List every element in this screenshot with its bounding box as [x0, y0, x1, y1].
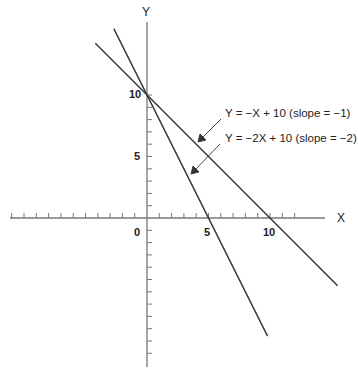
x-axis-label: X	[337, 212, 345, 224]
y-tick-label-5: 5	[134, 151, 140, 162]
x-tick-label-10: 10	[263, 227, 275, 238]
annotation-arrows	[191, 119, 221, 174]
arrow-eq1	[202, 119, 221, 138]
series-lines	[95, 29, 337, 337]
arrow-eq2	[195, 144, 220, 170]
y-axis-label: Y	[142, 6, 150, 18]
y-tick-label-10: 10	[129, 89, 141, 100]
equation-label-slope-2: Y = −2X + 10 (slope = −2)	[225, 133, 357, 145]
series-line-2	[114, 29, 268, 337]
chart-canvas	[0, 0, 358, 377]
y-ticks	[147, 95, 152, 353]
x-tick-label-5: 5	[204, 227, 210, 238]
axes	[10, 22, 325, 367]
x-ticks	[12, 213, 295, 218]
origin-label: 0	[134, 227, 140, 238]
series-line-1	[95, 43, 337, 285]
equation-label-slope-1: Y = −X + 10 (slope = −1)	[225, 108, 350, 120]
